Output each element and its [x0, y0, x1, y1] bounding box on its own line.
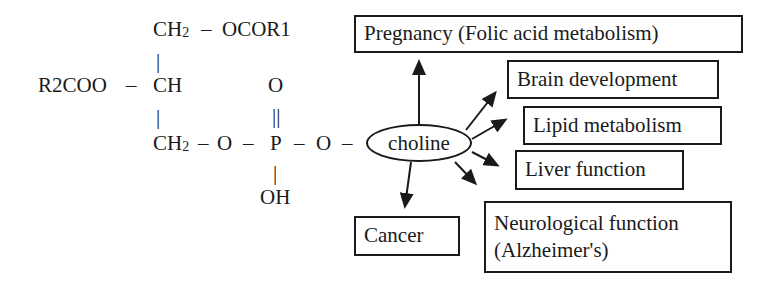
arrow-to-lipid [472, 120, 505, 139]
cancer-label: Cancer [364, 223, 423, 248]
liver-function-box: Liver function [515, 150, 684, 190]
pregnancy-label: Pregnancy (Folic acid metabolism) [364, 21, 659, 46]
choline-label: choline [388, 131, 450, 156]
choline-node: choline [366, 124, 472, 162]
neurological-function-label: Neurological function [494, 210, 679, 237]
brain-development-box: Brain development [507, 60, 719, 99]
lipid-metabolism-box: Lipid metabolism [523, 106, 722, 145]
liver-function-label: Liver function [525, 157, 646, 182]
arrow-to-brain [466, 93, 495, 130]
arrow-to-liver [472, 152, 497, 165]
lipid-metabolism-label: Lipid metabolism [533, 113, 682, 138]
neurological-function-box: Neurological function (Alzheimer's) [484, 201, 732, 273]
brain-development-label: Brain development [517, 67, 677, 92]
pregnancy-box: Pregnancy (Folic acid metabolism) [354, 15, 743, 53]
cancer-box: Cancer [354, 216, 460, 256]
alzheimers-label: (Alzheimer's) [494, 237, 609, 264]
arrow-to-neuro [455, 162, 475, 183]
arrow-to-cancer [405, 162, 411, 206]
